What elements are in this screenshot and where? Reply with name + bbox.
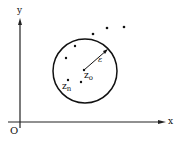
point [92,33,95,36]
z0-label-sub: o [89,74,93,82]
y-axis-arrow-icon [18,18,22,25]
point [74,45,76,47]
x-axis-label: x [168,117,173,126]
point-zn [67,79,69,81]
zn-label: zn [62,82,71,93]
epsilon-label: ε [98,56,102,64]
point [106,27,109,30]
point [80,81,82,83]
point [65,57,67,59]
z0-label: zo [84,71,93,82]
radius-line [84,50,107,70]
y-axis-label: y [17,6,22,15]
zn-label-sub: n [67,85,72,93]
origin-label: O [10,126,18,136]
point [123,26,126,29]
x-axis-arrow-icon [158,120,166,124]
